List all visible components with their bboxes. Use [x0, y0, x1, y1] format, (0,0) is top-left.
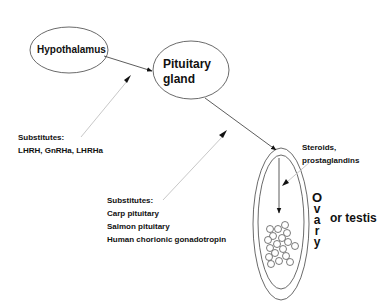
hypothalamus-label: Hypothalamus — [37, 44, 106, 55]
substitutes-pituitary: Substitutes: Carp pituitary Salmon pitui… — [107, 194, 226, 246]
pituitary-label: Pituitary gland — [163, 57, 211, 87]
prostaglandins-text: prostaglandins — [302, 154, 359, 167]
ovary-letter: y — [312, 237, 322, 248]
substitute-item: Salmon pituitary — [107, 220, 226, 233]
testis-label: or testis — [330, 211, 377, 226]
arrow-hypothalamus-to-pituitary — [104, 56, 152, 71]
gonad-inner — [258, 155, 304, 289]
pituitary-label-line1: Pituitary — [163, 57, 211, 72]
substitutes-heading: Substitutes: — [18, 131, 103, 144]
gonad-products-label: Steroids, prostaglandins — [302, 141, 359, 167]
steroids-text: Steroids, — [302, 141, 359, 154]
substitutes-items: LHRH, GnRHa, LHRHa — [18, 144, 103, 157]
arrow-pituitary-to-gonad — [205, 98, 276, 150]
substitute-item: Human chorionic gonadotropin — [107, 233, 226, 246]
arrowhead-carp — [219, 130, 227, 138]
ovary-vertical-label: O v a r y — [312, 191, 322, 248]
substitutes-heading: Substitutes: — [107, 194, 226, 207]
arrow-lhrh-to-pituitary — [81, 80, 128, 137]
substitute-item: Carp pituitary — [107, 207, 226, 220]
arrow-carp-to-gonad — [163, 136, 223, 200]
oocyte-cluster — [265, 222, 299, 268]
arrowhead-lhrh — [124, 75, 131, 83]
pituitary-label-line2: gland — [163, 72, 211, 87]
substitutes-hypothalamus: Substitutes: LHRH, GnRHa, LHRHa — [18, 131, 103, 157]
arrowhead-steroids — [282, 179, 289, 186]
